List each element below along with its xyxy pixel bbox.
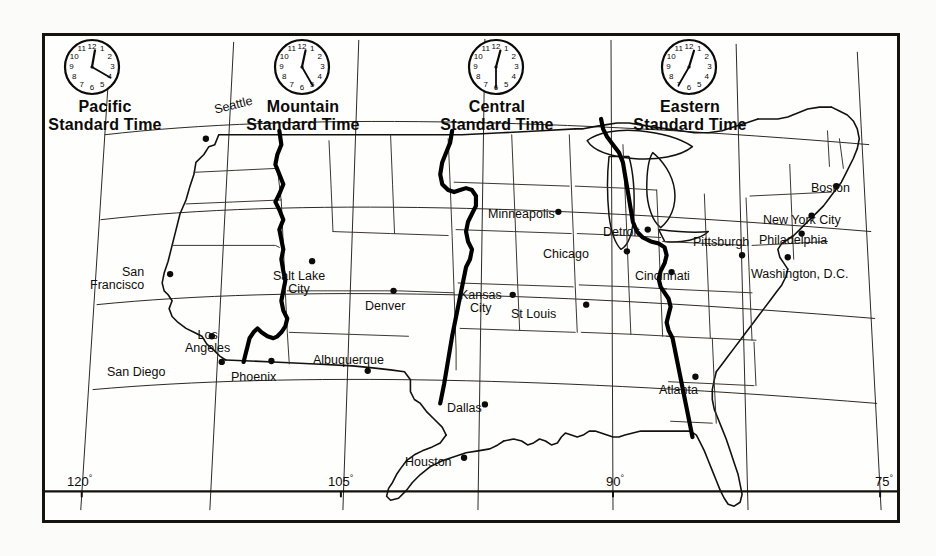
clock-numeral-3: 3 — [320, 62, 325, 71]
clock-face-mountain: 121234567891011 — [271, 36, 333, 98]
clock-numeral-8: 8 — [476, 72, 481, 81]
zone-title-mountain-line1: Mountain — [241, 98, 365, 116]
time-zone-map-page: 121234567891011 Pacific Standard Time 12… — [0, 0, 936, 556]
clock-numeral-1: 1 — [310, 44, 315, 53]
city-label-salt-lake-city-line2: City — [288, 282, 310, 296]
city-dot-albuquerque — [365, 368, 371, 374]
city-label-boston: Boston — [811, 182, 850, 196]
clock-numeral-4: 4 — [318, 72, 323, 81]
city-label-albuquerque: Albuquerque — [313, 354, 384, 368]
longitude-label-120: 120° — [67, 473, 92, 489]
city-label-phoenix: Phoenix — [231, 371, 276, 385]
city-label-san-diego: San Diego — [107, 366, 165, 380]
city-label-los-angeles: Los Angeles — [185, 329, 230, 355]
city-dot-seattle — [203, 136, 209, 142]
clock-numeral-1: 1 — [100, 44, 105, 53]
clock-numeral-3: 3 — [707, 62, 712, 71]
longitude-value-90: 90 — [606, 474, 620, 489]
zone-title-mountain: Mountain Standard Time — [241, 98, 365, 134]
city-label-cincinnati: Cincinnati — [635, 270, 690, 284]
map-frame: 121234567891011 Pacific Standard Time 12… — [42, 33, 900, 523]
city-label-philadelphia: Philadelphia — [759, 234, 827, 248]
degree-sign-105: ° — [350, 473, 354, 483]
clock-numeral-6: 6 — [300, 83, 305, 92]
clock-numeral-12: 12 — [88, 42, 97, 51]
degree-sign-90: ° — [620, 473, 624, 483]
clock-numeral-1: 1 — [504, 44, 509, 53]
clock-numeral-12: 12 — [492, 42, 501, 51]
clock-central: 121234567891011 — [465, 36, 527, 102]
clock-numeral-2: 2 — [705, 52, 710, 61]
city-dot-dallas — [482, 401, 488, 407]
city-label-salt-lake-city: Salt Lake City — [273, 270, 325, 296]
zone-title-eastern-line1: Eastern — [628, 98, 752, 116]
city-label-minneapolis: Minneapolis — [488, 208, 555, 222]
clock-numeral-7: 7 — [484, 80, 489, 89]
zone-title-pacific-line1: Pacific — [45, 98, 165, 116]
city-label-denver: Denver — [365, 300, 405, 314]
zone-title-eastern: Eastern Standard Time — [628, 98, 752, 134]
longitude-label-75: 75° — [875, 473, 893, 489]
city-label-kansas-city-line2: City — [470, 301, 492, 315]
clock-numeral-9: 9 — [473, 62, 478, 71]
city-dot-salt-lake-city — [309, 258, 315, 264]
city-label-st-louis: St Louis — [511, 308, 556, 322]
city-dot-chicago — [624, 248, 630, 254]
clock-numeral-1: 1 — [697, 44, 702, 53]
zone-title-central-line1: Central — [435, 98, 559, 116]
city-label-los-angeles-line2: Angeles — [185, 341, 230, 355]
city-label-washington-dc: Washington, D.C. — [751, 268, 849, 282]
clock-numeral-4: 4 — [512, 72, 517, 81]
clock-numeral-2: 2 — [512, 52, 517, 61]
city-label-new-york-city: New York City — [763, 214, 841, 228]
longitude-label-90: 90° — [606, 473, 624, 489]
longitude-value-75: 75 — [875, 474, 889, 489]
clock-face-eastern: 121234567891011 — [658, 36, 720, 98]
zone-title-central-line2: Standard Time — [435, 116, 559, 134]
clock-numeral-8: 8 — [669, 72, 674, 81]
clock-numeral-9: 9 — [666, 62, 671, 71]
mountain-central-boundary — [440, 131, 476, 404]
zone-title-eastern-line2: Standard Time — [628, 116, 752, 134]
city-label-pittsburgh: Pittsburgh — [693, 236, 749, 250]
city-dot-pittsburgh — [739, 252, 745, 258]
longitude-value-105: 105 — [328, 474, 350, 489]
city-label-chicago: Chicago — [543, 248, 589, 262]
clock-numeral-5: 5 — [100, 80, 105, 89]
clock-face-pacific: 121234567891011 — [61, 36, 123, 98]
city-dot-washington-dc — [785, 254, 791, 260]
clock-numeral-11: 11 — [78, 44, 87, 53]
city-dot-houston — [461, 455, 467, 461]
city-label-atlanta: Atlanta — [659, 384, 698, 398]
city-dot-phoenix — [268, 358, 274, 364]
city-dots — [167, 136, 840, 461]
parallel-lines — [93, 121, 877, 403]
city-dot-detroit — [645, 226, 651, 232]
city-label-san-francisco-line2: Francisco — [90, 278, 144, 292]
longitude-value-120: 120 — [67, 474, 89, 489]
zone-title-pacific-line2: Standard Time — [45, 116, 165, 134]
clock-numeral-7: 7 — [290, 80, 295, 89]
clock-numeral-5: 5 — [697, 80, 702, 89]
clock-numeral-12: 12 — [685, 42, 694, 51]
city-label-detroit: Detroit — [603, 226, 640, 240]
clock-numeral-3: 3 — [110, 62, 115, 71]
clock-numeral-12: 12 — [298, 42, 307, 51]
clock-numeral-8: 8 — [72, 72, 77, 81]
city-label-kansas-city: Kansas City — [460, 289, 502, 315]
city-dot-san-diego — [219, 359, 225, 365]
clock-numeral-5: 5 — [504, 80, 509, 89]
clock-numeral-7: 7 — [80, 80, 85, 89]
zone-title-mountain-line2: Standard Time — [241, 116, 365, 134]
city-dot-denver — [390, 288, 396, 294]
clock-numeral-2: 2 — [318, 52, 323, 61]
clock-numeral-9: 9 — [69, 62, 74, 71]
city-label-san-francisco: San Francisco — [90, 266, 144, 292]
city-label-kansas-city-line1: Kansas — [460, 288, 502, 302]
clock-numeral-11: 11 — [675, 44, 684, 53]
clock-pacific: 121234567891011 — [61, 36, 123, 102]
degree-sign-75: ° — [889, 473, 893, 483]
clock-mountain: 121234567891011 — [271, 36, 333, 102]
city-dot-atlanta — [692, 374, 698, 380]
longitude-label-105: 105° — [328, 473, 353, 489]
